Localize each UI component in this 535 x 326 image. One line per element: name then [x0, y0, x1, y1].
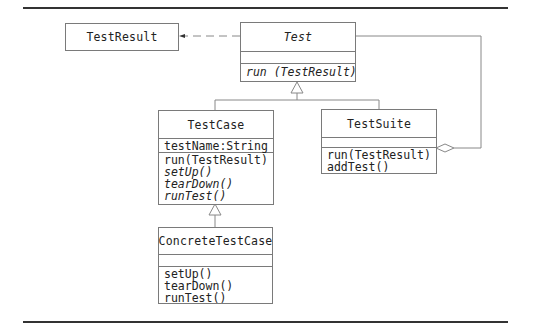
class-testcase[interactable]: TestCase testName:String run(TestResult)…	[158, 110, 274, 205]
class-testsuite[interactable]: TestSuite run(TestResult) addTest()	[321, 109, 437, 174]
arrowhead-icon	[179, 34, 185, 38]
attribute: testName:String	[164, 140, 268, 152]
attributes-section	[241, 51, 355, 63]
class-name: TestCase	[159, 111, 273, 138]
class-name: TestResult	[66, 24, 178, 50]
operations-section: setUp() tearDown() runTest()	[159, 266, 272, 303]
hollow-triangle-icon	[291, 82, 303, 93]
class-name: Test	[241, 23, 355, 51]
operation: runTest()	[164, 190, 268, 202]
hollow-diamond-icon	[436, 144, 454, 152]
generalization-to-test	[215, 82, 379, 110]
operation: addTest()	[327, 161, 431, 173]
attributes-section	[322, 137, 436, 147]
bottom-rule	[23, 321, 508, 323]
class-name: TestSuite	[322, 110, 436, 137]
operations-section: run (TestResult)	[241, 63, 355, 81]
generalization-to-testcase	[209, 204, 221, 227]
operations-section: run(TestResult) setUp() tearDown() runTe…	[159, 152, 273, 204]
class-concretetestcase[interactable]: ConcreteTestCase setUp() tearDown() runT…	[158, 227, 273, 304]
operation: run (TestResult)	[246, 66, 350, 78]
hollow-triangle-icon	[209, 204, 221, 215]
class-name: ConcreteTestCase	[159, 228, 272, 254]
operations-section: run(TestResult) addTest()	[322, 147, 436, 173]
attributes-section	[159, 254, 272, 266]
operation: runTest()	[164, 292, 267, 304]
dependency-arrow	[179, 34, 240, 38]
class-test[interactable]: Test run (TestResult)	[240, 22, 356, 82]
attributes-section: testName:String	[159, 138, 273, 152]
class-testresult[interactable]: TestResult	[65, 23, 179, 51]
top-rule	[23, 7, 508, 9]
